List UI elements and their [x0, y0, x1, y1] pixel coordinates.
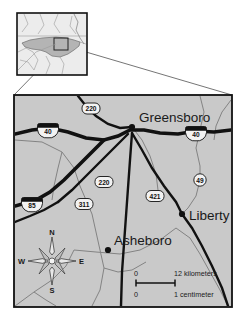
- scale-cm-max: 1 centimeter: [174, 290, 214, 299]
- locator-map-figure: Greensboro Liberty Asheboro 220 40: [0, 0, 247, 318]
- route-marker-label: 49: [196, 177, 204, 184]
- route-marker-label: 311: [79, 201, 90, 208]
- route-marker-i40-east: 40: [186, 127, 207, 141]
- city-label-greensboro: Greensboro: [139, 110, 210, 125]
- route-marker-49: 49: [194, 174, 206, 186]
- detail-map: Greensboro Liberty Asheboro 220 40: [14, 95, 232, 307]
- interstate-shield-top: [22, 198, 43, 202]
- city-label-liberty: Liberty: [189, 208, 230, 223]
- route-marker-label: 85: [28, 202, 36, 209]
- route-marker-label: 40: [192, 131, 200, 138]
- city-dot-liberty: [179, 211, 185, 217]
- city-dot-asheboro: [105, 247, 111, 253]
- scale-km-max: 12 kilometers: [174, 269, 217, 278]
- route-marker-i40-west: 40: [38, 124, 59, 138]
- map-canvas: Greensboro Liberty Asheboro 220 40: [0, 0, 247, 318]
- route-marker-220-north: 220: [82, 103, 100, 114]
- city-label-asheboro: Asheboro: [114, 233, 172, 248]
- interstate-shield-top: [186, 127, 207, 131]
- route-marker-label: 421: [149, 193, 160, 200]
- compass-label-north: N: [49, 228, 54, 237]
- compass-label-west: W: [18, 257, 26, 266]
- scale-cm-zero: 0: [134, 290, 138, 299]
- compass-hub: [49, 258, 55, 264]
- compass-label-south: S: [49, 286, 54, 295]
- scale-km-zero: 0: [134, 269, 138, 278]
- route-marker-421: 421: [146, 191, 164, 202]
- interstate-shield-top: [38, 124, 59, 128]
- route-marker-label: 220: [85, 105, 96, 112]
- route-marker-220-south: 220: [95, 177, 113, 188]
- route-marker-i85: 85: [22, 198, 43, 212]
- route-marker-label: 220: [98, 179, 109, 186]
- route-marker-311: 311: [75, 199, 93, 210]
- city-dot-greensboro: [129, 124, 135, 130]
- compass-label-east: E: [79, 257, 84, 266]
- route-marker-label: 40: [44, 128, 52, 135]
- state-locator-inset: [17, 13, 87, 75]
